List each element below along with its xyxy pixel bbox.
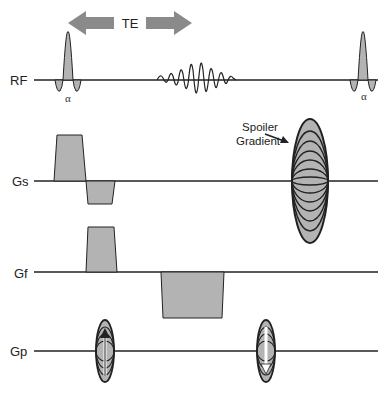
gs-slice-select-lobe [54, 135, 86, 181]
flip-angle-label-2: α [361, 90, 367, 102]
pulse-sequence-diagram: TE RF Gs Gf Gp α α Spoiler Gradient [0, 0, 386, 397]
gs-rephase-lobe [86, 181, 115, 204]
rf-pulse-alpha-2 [350, 32, 376, 92]
row-label-gf: Gf [14, 266, 28, 281]
echo-signal [157, 63, 236, 93]
gf-readout-lobe [161, 272, 224, 318]
gp-phase-encode-lobe [96, 320, 114, 382]
gp-rewinder-lobe [257, 320, 275, 382]
te-label: TE [122, 16, 139, 31]
flip-angle-label-1: α [65, 92, 71, 104]
rf-pulse-alpha-1 [55, 32, 81, 92]
spoiler-gradient [292, 119, 328, 243]
gf-dephase-lobe [86, 227, 117, 272]
row-label-rf: RF [10, 73, 27, 88]
spoiler-label-line1: Spoiler [242, 121, 278, 133]
row-label-gs: Gs [12, 174, 29, 189]
row-label-gp: Gp [10, 344, 27, 359]
